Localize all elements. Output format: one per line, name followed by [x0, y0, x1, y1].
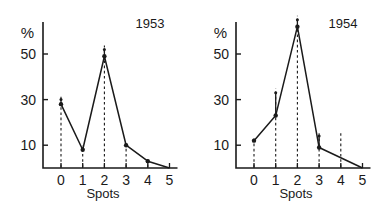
x-tick-label: 4 [144, 172, 152, 188]
x-axis-ticks: 012345 [57, 163, 174, 188]
chart-title-year: 1954 [329, 16, 358, 31]
x-axis-ticks: 012345 [250, 163, 367, 188]
chart-title-year: 1953 [136, 16, 165, 31]
x-tick-label: 0 [57, 172, 65, 188]
x-tick-label: 5 [166, 172, 174, 188]
axes [236, 22, 371, 168]
y-axis-ticks: 103050 [20, 46, 48, 153]
chart-panel-1954: 103050%0123451954Spots [193, 0, 386, 211]
drop-lines [61, 45, 148, 167]
drop-lines [254, 16, 341, 167]
x-tick-label: 4 [337, 172, 345, 188]
data-series-line [254, 27, 363, 168]
data-series-line [61, 56, 170, 168]
chart-panel-1953: 103050%0123451953Spots [0, 0, 193, 211]
y-axis-unit-label: % [21, 24, 34, 41]
x-tick-label: 3 [122, 172, 130, 188]
x-axis-title: Spots [86, 186, 120, 201]
y-tick-label: 30 [213, 92, 229, 108]
y-tick-label: 30 [20, 92, 36, 108]
x-tick-label: 3 [315, 172, 323, 188]
figure-canvas: 103050%0123451953Spots103050%0123451954S… [0, 0, 386, 211]
axes [43, 22, 178, 168]
x-axis-title: Spots [279, 186, 313, 201]
x-tick-label: 0 [250, 172, 258, 188]
x-tick-label: 5 [359, 172, 367, 188]
y-axis-unit-label: % [214, 24, 227, 41]
y-tick-label: 10 [213, 137, 229, 153]
error-bars [60, 48, 106, 104]
y-tick-label: 50 [213, 46, 229, 62]
y-axis-ticks: 103050 [213, 46, 241, 153]
y-tick-label: 50 [20, 46, 36, 62]
y-tick-label: 10 [20, 137, 36, 153]
